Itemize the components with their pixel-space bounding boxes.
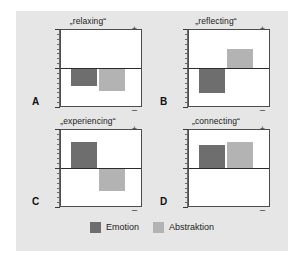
bar-abstraktion (227, 142, 253, 169)
panel-a-title: „relaxing“ (30, 16, 146, 26)
chart-legend: Emotion Abstraktion (16, 218, 288, 236)
panel-d-plot-frame (188, 129, 270, 207)
panel-b-plot-frame (188, 29, 270, 107)
panel-c-zero-line (61, 168, 141, 169)
bar-abstraktion (99, 69, 125, 91)
panel-d-title: „connecting“ (158, 116, 274, 126)
panel-a: „relaxing“ + 0 _ A (30, 16, 146, 112)
bar-emotion (71, 142, 97, 169)
figure-container: „relaxing“ + 0 _ A „reflecting“ + 0 _ (16, 11, 288, 251)
panel-a-plot-area (60, 29, 142, 107)
bar-abstraktion (99, 169, 125, 191)
legend-item-abstraktion: Abstraktion (153, 222, 214, 233)
panel-a-letter: A (32, 96, 39, 107)
panel-d-plot-area (188, 129, 270, 207)
legend-swatch-emotion (90, 222, 101, 233)
panel-b-zero-line (189, 68, 269, 69)
panel-b: „reflecting“ + 0 _ B (158, 16, 274, 112)
legend-swatch-abstraktion (153, 222, 164, 233)
panel-d-letter: D (160, 196, 167, 207)
y-axis-major-tick (183, 107, 188, 108)
bar-emotion (199, 145, 225, 169)
panel-grid: „relaxing“ + 0 _ A „reflecting“ + 0 _ (16, 11, 288, 211)
panel-c-title: „experiencing“ (30, 116, 146, 126)
bar-emotion (199, 69, 225, 93)
panel-b-title: „reflecting“ (158, 16, 274, 26)
legend-label-abstraktion: Abstraktion (169, 222, 214, 232)
bar-emotion (71, 69, 97, 86)
panel-d: „connecting“ + 0 _ D (158, 116, 274, 212)
legend-label-emotion: Emotion (106, 222, 139, 232)
bar-abstraktion (227, 49, 253, 69)
y-axis-major-tick (55, 107, 60, 108)
panel-d-zero-line (189, 168, 269, 169)
panel-c: „experiencing“ + 0 _ C (30, 116, 146, 212)
panel-c-plot-frame (60, 129, 142, 207)
y-axis-major-tick (183, 207, 188, 208)
panel-a-zero-line (61, 68, 141, 69)
panel-b-plot-area (188, 29, 270, 107)
y-axis-major-tick (55, 207, 60, 208)
panel-c-letter: C (32, 196, 39, 207)
panel-b-letter: B (160, 96, 167, 107)
panel-a-plot-frame (60, 29, 142, 107)
legend-item-emotion: Emotion (90, 222, 139, 233)
panel-c-plot-area (60, 129, 142, 207)
